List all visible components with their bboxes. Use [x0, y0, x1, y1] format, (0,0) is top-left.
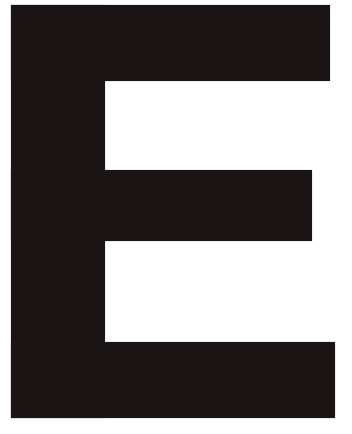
letter-e-glyph: E — [0, 0, 352, 434]
letter-bottom-arm — [11, 342, 335, 418]
letter-top-arm — [11, 5, 330, 81]
letter-middle-arm — [11, 170, 312, 241]
letter-label: E — [0, 0, 1, 1]
canvas: E — [0, 0, 352, 434]
